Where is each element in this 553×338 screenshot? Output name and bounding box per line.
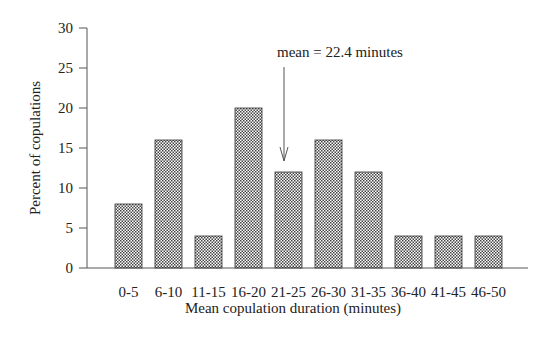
y-tick-label: 20 bbox=[58, 100, 73, 116]
x-tick-label: 46-50 bbox=[471, 284, 506, 300]
y-tick-label: 30 bbox=[58, 20, 73, 36]
y-tick-label: 25 bbox=[58, 60, 73, 76]
x-tick-label: 21-25 bbox=[271, 284, 306, 300]
bar-26-30 bbox=[315, 140, 342, 268]
bar-16-20 bbox=[235, 108, 262, 268]
histogram-chart: 051015202530 0-56-1011-1516-2021-2526-30… bbox=[0, 0, 553, 338]
y-tick-label: 5 bbox=[66, 220, 74, 236]
bar-36-40 bbox=[395, 236, 422, 268]
x-tick-label: 16-20 bbox=[231, 284, 266, 300]
x-tick-label: 11-15 bbox=[191, 284, 225, 300]
x-axis: 0-56-1011-1516-2021-2526-3031-3536-4041-… bbox=[87, 268, 528, 300]
bar-31-35 bbox=[355, 172, 382, 268]
y-axis-label: Percent of copulations bbox=[27, 81, 43, 215]
bar-6-10 bbox=[155, 140, 182, 268]
bar-46-50 bbox=[475, 236, 502, 268]
bar-0-5 bbox=[115, 204, 142, 268]
x-tick-label: 0-5 bbox=[119, 284, 139, 300]
y-tick-label: 0 bbox=[66, 260, 74, 276]
bars bbox=[115, 108, 502, 268]
bar-41-45 bbox=[435, 236, 462, 268]
bar-21-25 bbox=[275, 172, 302, 268]
x-tick-label: 36-40 bbox=[391, 284, 426, 300]
x-tick-label: 6-10 bbox=[155, 284, 183, 300]
x-tick-label: 31-35 bbox=[351, 284, 386, 300]
x-axis-label: Mean copulation duration (minutes) bbox=[185, 300, 401, 317]
mean-label: mean = 22.4 minutes bbox=[277, 44, 403, 60]
y-tick-label: 15 bbox=[58, 140, 73, 156]
y-tick-label: 10 bbox=[58, 180, 73, 196]
x-tick-label: 26-30 bbox=[311, 284, 346, 300]
x-tick-label: 41-45 bbox=[431, 284, 466, 300]
y-axis: 051015202530 bbox=[58, 20, 87, 276]
bar-11-15 bbox=[195, 236, 222, 268]
